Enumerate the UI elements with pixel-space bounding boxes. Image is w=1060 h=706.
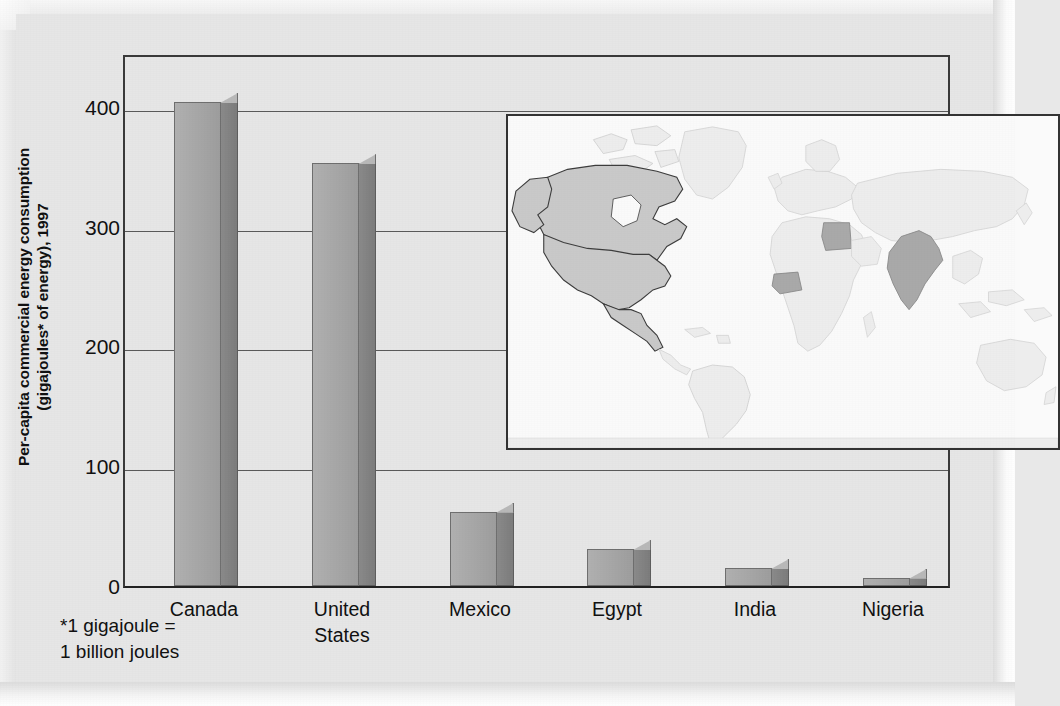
bar-top-bevel xyxy=(771,559,789,569)
gridline-400 xyxy=(125,111,948,112)
bar-side-face xyxy=(221,102,238,586)
bar-side-face xyxy=(910,578,927,586)
bar-front-face xyxy=(587,549,634,586)
y-axis-tick-labels: 0100200300400 xyxy=(58,0,120,706)
footnote: *1 gigajoule = 1 billion joules xyxy=(60,613,310,665)
bar-india xyxy=(725,558,789,586)
bar-canada xyxy=(174,92,238,586)
y-axis-title: Per-capita commercial energy consumption… xyxy=(14,72,44,542)
bar-front-face xyxy=(450,512,497,586)
bar-side-face xyxy=(497,512,514,586)
bar-top-bevel xyxy=(358,154,376,164)
y-tick-label-300: 300 xyxy=(60,216,120,240)
bar-top-bevel xyxy=(496,503,514,513)
bar-top-bevel xyxy=(633,540,651,550)
y-tick-label-0: 0 xyxy=(60,575,120,599)
x-label-line: India xyxy=(693,596,817,622)
map-egypt xyxy=(822,223,852,251)
world-map-svg xyxy=(508,116,1058,448)
y-tick-label-100: 100 xyxy=(60,455,120,479)
x-label-line: Egypt xyxy=(555,596,679,622)
world-map-inset xyxy=(506,114,1060,450)
bar-united-states xyxy=(312,153,376,586)
bar-top-bevel xyxy=(909,569,927,579)
bar-side-face xyxy=(634,549,651,586)
bar-nigeria xyxy=(863,568,927,586)
y-axis-title-line2: (gigajoules* of energy), 1997 xyxy=(33,72,52,542)
x-label-line: Mexico xyxy=(418,596,542,622)
bar-front-face xyxy=(863,578,910,586)
x-label-mexico: Mexico xyxy=(418,596,542,622)
bar-front-face xyxy=(312,163,359,586)
y-axis-title-line1: Per-capita commercial energy consumption xyxy=(14,72,33,542)
gridline-100 xyxy=(125,470,948,471)
footnote-line2: 1 billion joules xyxy=(60,639,310,665)
x-label-india: India xyxy=(693,596,817,622)
map-nigeria xyxy=(772,272,802,294)
bar-mexico xyxy=(450,502,514,586)
map-antarctica xyxy=(508,438,1058,448)
y-tick-label-400: 400 xyxy=(60,96,120,120)
bar-side-face xyxy=(772,568,789,586)
y-tick-label-200: 200 xyxy=(60,335,120,359)
x-label-line: Nigeria xyxy=(831,596,955,622)
bar-front-face xyxy=(174,102,221,586)
plot-area xyxy=(123,55,950,588)
bar-side-face xyxy=(359,163,376,586)
x-label-nigeria: Nigeria xyxy=(831,596,955,622)
bar-front-face xyxy=(725,568,772,586)
x-label-egypt: Egypt xyxy=(555,596,679,622)
footnote-line1: *1 gigajoule = xyxy=(60,613,310,639)
bar-egypt xyxy=(587,539,651,586)
